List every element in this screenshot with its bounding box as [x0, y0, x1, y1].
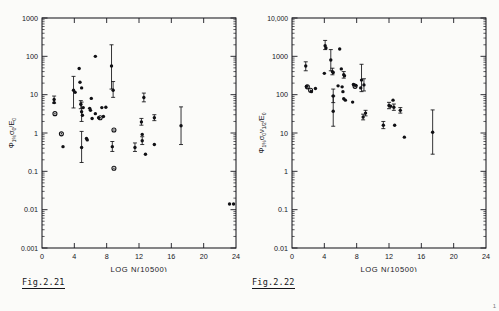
figure-caption-2-22: Fig.2.22: [252, 277, 295, 289]
svg-text:Φ1%σ0ν1/2/E0: Φ1%σ0ν1/2/E0: [257, 112, 267, 153]
y-axis-label: Φ1%σ0ν1/2/E0: [257, 112, 267, 153]
x-tick-label: 16: [417, 252, 425, 261]
x-tick-label: 16: [167, 252, 175, 261]
figure-2-22: 0.010.1110100100010,00004812162024LOG N(…: [250, 0, 499, 311]
data-point: [324, 46, 327, 49]
data-point: [61, 145, 64, 148]
data-point: [392, 106, 395, 109]
figure-caption-2-21: Fig.2.21: [22, 277, 65, 289]
data-point: [364, 111, 367, 114]
data-point: [52, 98, 55, 101]
data-point: [52, 101, 55, 104]
figure-caption-2-21-text: Fig.2.21: [22, 277, 65, 287]
y-tick-label: 10: [280, 129, 288, 138]
data-point: [80, 86, 83, 89]
data-point: [329, 58, 332, 61]
data-point-center: [54, 113, 56, 115]
data-point: [310, 90, 313, 93]
data-point: [351, 100, 354, 103]
x-tick-label: 12: [385, 252, 393, 261]
y-tick-label: 1000: [272, 52, 288, 61]
data-point-center: [61, 133, 63, 135]
y-tick-label: 100: [26, 52, 38, 61]
data-point: [431, 130, 434, 133]
data-point: [391, 98, 394, 101]
x-tick-label: 4: [322, 252, 326, 261]
y-tick-label: 100: [276, 90, 288, 99]
x-tick-label: 8: [355, 252, 359, 261]
data-point: [340, 67, 343, 70]
data-point-center: [307, 86, 309, 88]
x-tick-label: 24: [232, 252, 240, 261]
data-point: [140, 120, 143, 123]
data-point: [314, 87, 317, 90]
x-tick-label: 0: [40, 252, 44, 261]
x-axis-label: LOG N(10500): [110, 265, 167, 272]
data-point: [393, 123, 396, 126]
y-tick-label: 10,000: [267, 15, 288, 22]
data-point: [80, 146, 83, 149]
y-axis-label: Φ1%σ0/E0: [7, 118, 17, 148]
y-tick-label: 10: [30, 90, 38, 99]
data-point: [82, 106, 85, 109]
data-point: [77, 67, 80, 70]
x-tick-label: 0: [290, 252, 294, 261]
data-point: [90, 117, 93, 120]
data-point: [90, 97, 93, 100]
data-point: [142, 96, 145, 99]
svg-text:Φ1%σ0/E0: Φ1%σ0/E0: [7, 118, 17, 148]
data-point: [141, 133, 144, 136]
data-point-center: [113, 168, 115, 170]
data-point: [399, 109, 402, 112]
y-tick-label: 0.01: [24, 205, 38, 214]
y-tick-label: 0.1: [278, 205, 288, 214]
data-point: [338, 47, 341, 50]
data-point: [141, 139, 144, 142]
data-point: [73, 91, 76, 94]
data-point: [343, 74, 346, 77]
data-point: [323, 72, 326, 75]
y-tick-label: 1: [34, 129, 38, 138]
data-point: [403, 135, 406, 138]
y-tick-label: 0.001: [21, 245, 38, 252]
figure-caption-2-22-text: Fig.2.22: [252, 277, 295, 287]
data-point: [144, 152, 147, 155]
data-point-center: [354, 86, 356, 88]
x-tick-label: 8: [105, 252, 109, 261]
data-point: [111, 89, 114, 92]
data-point: [110, 64, 113, 67]
data-point-center: [99, 117, 101, 119]
data-point: [344, 98, 347, 101]
data-point: [232, 202, 235, 205]
y-tick-label: 0.1: [28, 167, 38, 176]
caption-underline: [22, 288, 65, 289]
data-point: [86, 138, 89, 141]
data-point: [382, 123, 385, 126]
x-tick-label: 20: [200, 252, 208, 261]
data-point: [359, 86, 362, 89]
caption-underline: [252, 288, 295, 289]
data-point: [81, 114, 84, 117]
x-tick-label: 24: [482, 252, 490, 261]
data-point: [332, 110, 335, 113]
figure-page: 0.0010.010.1110100100004812162024LOG N(1…: [0, 0, 499, 311]
y-tick-label: 1000: [22, 14, 38, 23]
data-point: [332, 71, 335, 74]
data-point: [340, 85, 343, 88]
data-point: [133, 146, 136, 149]
data-point: [228, 202, 231, 205]
scatter-plot-2-21: 0.0010.010.1110100100004812162024LOG N(1…: [0, 0, 249, 272]
data-point: [89, 109, 92, 112]
data-point-center: [113, 129, 115, 131]
data-point: [153, 116, 156, 119]
data-point: [78, 81, 81, 84]
data-point: [304, 64, 307, 67]
x-tick-label: 20: [450, 252, 458, 261]
data-point: [111, 145, 114, 148]
data-point: [336, 84, 339, 87]
page-corner-mark: 1: [493, 303, 496, 309]
data-point: [94, 112, 97, 115]
data-point: [179, 124, 182, 127]
figure-2-21: 0.0010.010.1110100100004812162024LOG N(1…: [0, 0, 249, 311]
x-axis-label: LOG N(10500): [360, 265, 417, 272]
